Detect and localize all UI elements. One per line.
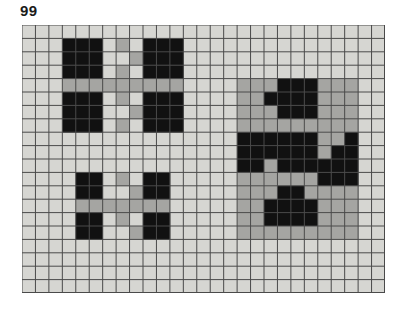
black-cell (76, 105, 90, 119)
black-cell (264, 199, 278, 213)
gray-cell (116, 79, 130, 93)
black-cell (304, 146, 318, 160)
gray-cell (318, 105, 332, 119)
black-cell (291, 159, 305, 173)
gray-cell (318, 146, 332, 160)
black-cell (143, 92, 157, 106)
gray-cell (237, 172, 251, 186)
gray-cell (237, 186, 251, 200)
black-cell (291, 132, 305, 146)
black-cell (291, 186, 305, 200)
gray-cell (318, 132, 332, 146)
black-cell (156, 38, 170, 52)
gray-cell (116, 65, 130, 79)
gray-cell (130, 79, 144, 93)
gray-cell (251, 199, 265, 213)
black-cell (251, 159, 265, 173)
black-cell (156, 92, 170, 106)
gray-cell (116, 199, 130, 213)
black-cell (304, 92, 318, 106)
gray-cell (264, 172, 278, 186)
black-cell (89, 172, 103, 186)
black-cell (304, 213, 318, 227)
black-cell (62, 65, 76, 79)
gray-cell (116, 213, 130, 227)
black-cell (251, 132, 265, 146)
gray-cell (237, 213, 251, 227)
black-cell (170, 119, 184, 133)
black-cell (318, 159, 332, 173)
gray-cell (264, 79, 278, 93)
black-cell (277, 186, 291, 200)
black-cell (76, 119, 90, 133)
gray-cell (331, 186, 345, 200)
black-cell (264, 92, 278, 106)
black-cell (304, 105, 318, 119)
pattern-grid (22, 25, 385, 293)
gray-cell (331, 105, 345, 119)
gray-cell (331, 92, 345, 106)
gray-cell (345, 92, 359, 106)
gray-cell (345, 213, 359, 227)
black-cell (76, 226, 90, 240)
black-cell (331, 172, 345, 186)
black-cell (291, 146, 305, 160)
gray-cell (291, 226, 305, 240)
gray-cell (130, 226, 144, 240)
gray-cell (130, 105, 144, 119)
black-cell (237, 159, 251, 173)
black-cell (62, 38, 76, 52)
black-cell (277, 213, 291, 227)
gray-cell (331, 213, 345, 227)
gray-cell (318, 79, 332, 93)
gray-cell (89, 199, 103, 213)
black-cell (89, 92, 103, 106)
black-cell (89, 119, 103, 133)
pattern-grid-svg (22, 25, 385, 293)
black-cell (62, 119, 76, 133)
black-cell (304, 199, 318, 213)
black-cell (277, 92, 291, 106)
black-cell (89, 105, 103, 119)
black-cell (76, 92, 90, 106)
black-cell (62, 92, 76, 106)
figure-number-label: 99 (20, 2, 38, 20)
gray-cell (345, 186, 359, 200)
gray-cell (277, 119, 291, 133)
black-cell (62, 52, 76, 66)
black-cell (89, 38, 103, 52)
black-cell (62, 105, 76, 119)
gray-cell (143, 79, 157, 93)
gray-cell (251, 92, 265, 106)
gray-cell (318, 186, 332, 200)
black-cell (89, 226, 103, 240)
gray-cell (331, 132, 345, 146)
black-cell (143, 65, 157, 79)
black-cell (170, 65, 184, 79)
black-cell (89, 213, 103, 227)
black-cell (251, 146, 265, 160)
black-cell (264, 146, 278, 160)
gray-cell (116, 92, 130, 106)
gray-cell (291, 172, 305, 186)
black-cell (143, 38, 157, 52)
black-cell (170, 105, 184, 119)
black-cell (331, 146, 345, 160)
gray-cell (156, 199, 170, 213)
black-cell (156, 105, 170, 119)
gray-cell (143, 199, 157, 213)
black-cell (304, 79, 318, 93)
gray-cell (130, 199, 144, 213)
black-cell (170, 92, 184, 106)
black-cell (143, 186, 157, 200)
gray-cell (170, 79, 184, 93)
black-cell (156, 226, 170, 240)
black-cell (89, 52, 103, 66)
gray-cell (345, 119, 359, 133)
black-cell (143, 105, 157, 119)
black-cell (156, 119, 170, 133)
black-cell (237, 132, 251, 146)
black-cell (318, 172, 332, 186)
gray-cell (103, 79, 117, 93)
black-cell (277, 159, 291, 173)
